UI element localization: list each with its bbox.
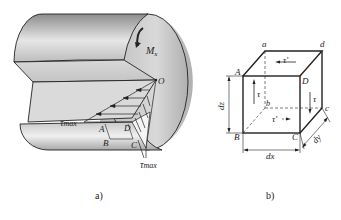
tau-left-label: τ (257, 89, 261, 99)
tau-bottom-label: τ' (272, 114, 278, 124)
tau-right-label: τ (313, 94, 317, 104)
tau-top-label: τ' (283, 55, 289, 65)
caption-b: b) (266, 190, 274, 202)
dim-dx-label: dx (266, 151, 275, 161)
diagram-canvas: Mx O τmax A B C D τmax a) (0, 0, 341, 220)
vertex-A-label: A (234, 67, 241, 77)
vertex-a-label: a (262, 39, 267, 49)
dim-dy-label: dy (310, 132, 323, 145)
caption-a: a) (95, 190, 103, 202)
point-d-label: D (123, 123, 131, 133)
point-a-label: A (98, 124, 105, 134)
vertex-c-label: c (325, 103, 329, 113)
tau-bottom-arrow-icon (282, 118, 291, 121)
vertex-C-label: C (292, 132, 299, 142)
vertex-B-label: B (234, 132, 240, 142)
tau-left-arrow-icon (253, 79, 256, 104)
point-c-label: C (131, 140, 138, 150)
center-o-label: O (158, 76, 165, 86)
vertex-D-label: D (301, 76, 309, 86)
front-face (243, 76, 300, 133)
tau-max-top-label: τmax (60, 117, 77, 128)
dim-dz-label: dz (216, 102, 226, 111)
tau-right-arrow-icon (309, 92, 312, 114)
vertex-b-label: b (266, 99, 270, 108)
figure-a-cylinder (14, 14, 193, 158)
tau-max-bottom-label: τmax (140, 159, 157, 170)
vertex-d-label: d (320, 39, 325, 49)
point-b-label: B (103, 138, 109, 148)
